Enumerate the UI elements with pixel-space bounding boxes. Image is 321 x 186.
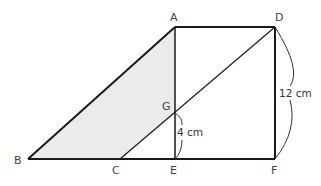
- point-label-f: F: [271, 164, 277, 177]
- measurement-df: 12 cm: [279, 87, 312, 99]
- measurement-ge: 4 cm: [177, 126, 203, 138]
- geometry-diagram: A D B C E F G 12 cm 4 cm: [0, 0, 321, 186]
- arc-df: [275, 27, 294, 86]
- point-label-d: D: [275, 11, 283, 24]
- point-label-e: E: [170, 164, 177, 177]
- arc-ge-bottom: [175, 140, 182, 159]
- arc-ge-top: [175, 113, 182, 125]
- arc-df-lower: [275, 100, 292, 159]
- point-label-c: C: [112, 164, 120, 177]
- point-label-b: B: [14, 154, 22, 167]
- point-label-a: A: [170, 11, 178, 24]
- point-label-g: G: [162, 100, 171, 113]
